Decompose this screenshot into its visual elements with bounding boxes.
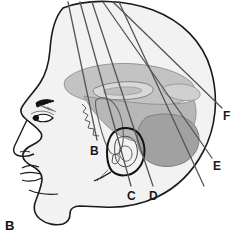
mouth-line bbox=[20, 173, 41, 175]
label-c: C bbox=[127, 190, 136, 202]
label-d: D bbox=[149, 190, 158, 202]
eye-iris bbox=[33, 115, 39, 121]
cerebellum bbox=[137, 114, 199, 166]
figure-container: B C D E F B bbox=[0, 0, 238, 236]
label-f: F bbox=[223, 110, 230, 122]
label-e: E bbox=[213, 160, 221, 172]
panel-letter: B bbox=[5, 219, 14, 232]
anatomy-illustration bbox=[0, 0, 238, 236]
label-b: B bbox=[90, 145, 99, 157]
lower-lip bbox=[22, 178, 42, 181]
